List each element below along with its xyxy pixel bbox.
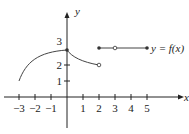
y-axis-label: y <box>74 5 80 17</box>
y-tick-label: 3 <box>57 35 63 47</box>
closed-point <box>97 46 101 50</box>
function-label: y = f(x) <box>150 42 184 55</box>
open-point <box>113 46 117 50</box>
closed-point <box>65 48 69 52</box>
x-tick-label: −3 <box>13 102 25 114</box>
y-tick-label: 2 <box>57 59 63 71</box>
x-tick-label: 2 <box>96 102 102 114</box>
x-tick-label: 3 <box>112 102 118 114</box>
y-axis-arrow-icon <box>65 12 70 18</box>
x-tick-label: 5 <box>144 102 150 114</box>
graph: −3 −2 −1 1 2 3 4 5 1 2 3 y x y = f(x) <box>0 0 189 134</box>
closed-point <box>145 46 149 50</box>
x-tick-label: −2 <box>29 102 41 114</box>
y-tick-label: 1 <box>57 75 63 87</box>
x-tick-label: −1 <box>45 102 57 114</box>
open-point <box>97 63 101 67</box>
middle-curve <box>67 50 99 65</box>
x-tick-label: 4 <box>128 102 134 114</box>
x-axis-label: x <box>183 91 189 103</box>
x-tick-label: 1 <box>80 102 86 114</box>
